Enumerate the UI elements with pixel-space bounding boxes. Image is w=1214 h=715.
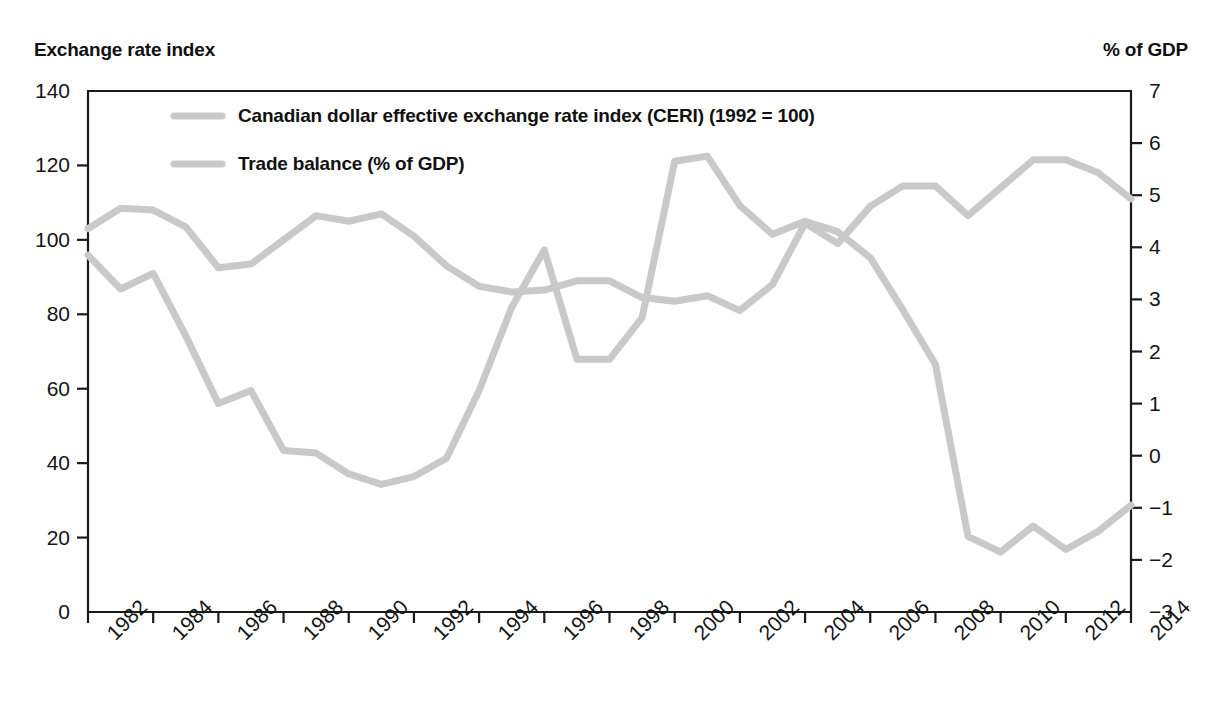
y2-axis-tick-label: 5 [1149, 183, 1161, 207]
y2-axis-tick-label: 7 [1149, 79, 1161, 103]
legend-label-1: Trade balance (% of GDP) [238, 153, 464, 175]
y-axis-tick-label: 0 [58, 600, 70, 624]
y-axis-tick-label: 120 [35, 153, 70, 177]
chart-figure: Exchange rate index % of GDP 02040608010… [0, 0, 1214, 715]
y-axis-tick-label: 100 [35, 228, 70, 252]
y2-axis-tick-label: −1 [1149, 496, 1173, 520]
y-axis-tick-label: 40 [47, 451, 70, 475]
data-lines [88, 156, 1131, 552]
y2-axis-tick-label: 2 [1149, 340, 1161, 364]
y-axis-tick-label: 140 [35, 79, 70, 103]
series-line-0 [88, 160, 1131, 311]
legend-swatches [174, 116, 222, 164]
legend-label-0: Canadian dollar effective exchange rate … [238, 105, 815, 127]
y-axis-tick-label: 60 [47, 377, 70, 401]
y2-axis-tick-label: −2 [1149, 548, 1173, 572]
y-axis-tick-label: 20 [47, 526, 70, 550]
axis-ticks [77, 143, 1142, 623]
y2-axis-tick-label: 4 [1149, 235, 1161, 259]
y2-axis-tick-label: 6 [1149, 131, 1161, 155]
y2-axis-tick-label: 3 [1149, 287, 1161, 311]
series-line-1 [88, 156, 1131, 552]
y2-axis-tick-label: 1 [1149, 392, 1161, 416]
y2-axis-tick-label: 0 [1149, 444, 1161, 468]
y-axis-tick-label: 80 [47, 302, 70, 326]
